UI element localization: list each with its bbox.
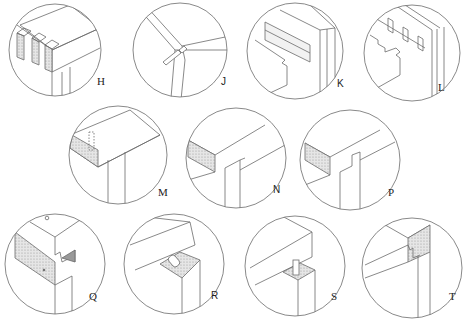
vignette-h	[10, 5, 100, 110]
vignette-q	[15, 216, 100, 320]
vignette-label-s: S	[331, 291, 337, 302]
vignette-t	[365, 222, 430, 320]
vignette-label-h: H	[97, 76, 105, 87]
vignette-j	[140, 6, 230, 110]
vignette-label-p: P	[388, 187, 394, 198]
vignette-label-n: N	[273, 185, 280, 195]
vignette-label-t: T	[449, 291, 456, 302]
vignette-label-r: R	[211, 291, 218, 301]
vignette-p	[305, 130, 395, 215]
vignette-label-l: L	[438, 82, 445, 93]
vignette-label-q: Q	[89, 291, 97, 302]
vignette-r	[130, 215, 200, 320]
vignette-label-j: J	[221, 77, 226, 87]
vignette-n	[188, 125, 285, 213]
joint-vignettes-drawing	[0, 0, 474, 323]
vignette-label-m: M	[158, 187, 168, 198]
vignette-label-k: K	[337, 79, 344, 89]
